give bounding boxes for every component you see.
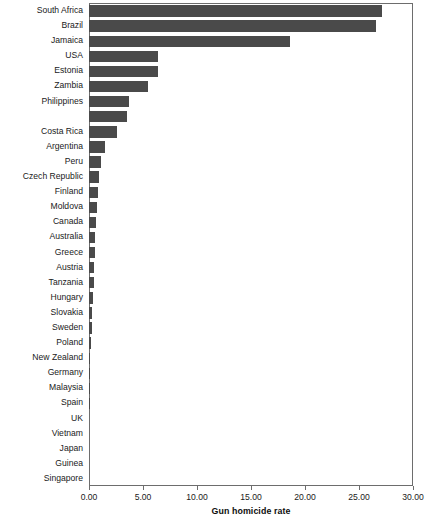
bar-row bbox=[89, 214, 413, 229]
bar bbox=[89, 383, 90, 394]
bar bbox=[89, 202, 97, 213]
x-axis-tick-mark bbox=[251, 486, 252, 490]
bar bbox=[89, 353, 90, 364]
bar bbox=[89, 337, 91, 348]
bar-row bbox=[89, 184, 413, 199]
y-axis-tick-label: Malaysia bbox=[0, 380, 86, 395]
y-axis-tick-label: Austria bbox=[0, 260, 86, 275]
y-axis-tick-label: Finland bbox=[0, 184, 86, 199]
bar-row bbox=[89, 320, 413, 335]
bar-row bbox=[89, 456, 413, 471]
bar bbox=[89, 292, 93, 303]
bar bbox=[89, 277, 94, 288]
bar-row bbox=[89, 305, 413, 320]
y-axis-tick-label: Tanzania bbox=[0, 275, 86, 290]
x-axis: 0.005.0010.0015.0020.0025.0030.00 bbox=[89, 486, 413, 522]
bar-row bbox=[89, 441, 413, 456]
bar-row bbox=[89, 380, 413, 395]
y-axis-tick-label: New Zealand bbox=[0, 350, 86, 365]
y-axis-tick-label: Vietnam bbox=[0, 426, 86, 441]
x-axis-tick-mark bbox=[143, 486, 144, 490]
x-axis-tick-label: 0.00 bbox=[81, 492, 98, 502]
bar-series-layer bbox=[89, 3, 413, 486]
bar-row bbox=[89, 169, 413, 184]
bar bbox=[89, 111, 127, 122]
bar-row bbox=[89, 139, 413, 154]
y-axis-tick-label: Sweden bbox=[0, 320, 86, 335]
y-axis-tick-label: Jamaica bbox=[0, 33, 86, 48]
bar-row bbox=[89, 94, 413, 109]
bar-row bbox=[89, 78, 413, 93]
bar bbox=[89, 171, 99, 182]
y-axis-tick-label: Guinea bbox=[0, 456, 86, 471]
bar-row bbox=[89, 48, 413, 63]
x-axis-tick-mark bbox=[197, 486, 198, 490]
bar bbox=[89, 322, 92, 333]
y-axis-tick-label: Argentina bbox=[0, 139, 86, 154]
bar bbox=[89, 156, 101, 167]
y-axis-tick-label: Australia bbox=[0, 229, 86, 244]
bar-row bbox=[89, 199, 413, 214]
bar-row bbox=[89, 124, 413, 139]
y-axis-tick-label: South Africa bbox=[0, 3, 86, 18]
x-axis-tick-mark bbox=[89, 486, 90, 490]
bar-row bbox=[89, 426, 413, 441]
bar-row bbox=[89, 229, 413, 244]
bar bbox=[89, 81, 148, 92]
x-axis-tick-label: 15.00 bbox=[240, 492, 262, 502]
bar-row bbox=[89, 33, 413, 48]
y-axis-tick-label: Estonia bbox=[0, 63, 86, 78]
bar-row bbox=[89, 471, 413, 486]
y-axis-tick-label: Japan bbox=[0, 441, 86, 456]
bar bbox=[89, 51, 158, 62]
y-axis-tick-label: Peru bbox=[0, 154, 86, 169]
bar bbox=[89, 126, 117, 137]
y-axis-tick-label: Poland bbox=[0, 335, 86, 350]
y-axis-tick-label: UK bbox=[0, 411, 86, 426]
bar-row bbox=[89, 350, 413, 365]
bar bbox=[89, 66, 158, 77]
bar-row bbox=[89, 335, 413, 350]
bar bbox=[89, 232, 95, 243]
gun-homicide-rate-chart: South AfricaBrazilJamaicaUSAEstoniaZambi… bbox=[0, 0, 429, 522]
bar-row bbox=[89, 109, 413, 124]
bar bbox=[89, 307, 92, 318]
x-axis-tick-label: 20.00 bbox=[294, 492, 316, 502]
bar bbox=[89, 247, 95, 258]
bar-row bbox=[89, 154, 413, 169]
x-axis-tick-label: 5.00 bbox=[135, 492, 152, 502]
x-axis-tick-label: 25.00 bbox=[348, 492, 370, 502]
y-axis-tick-label: Czech Republic bbox=[0, 169, 86, 184]
y-axis-tick-label: Brazil bbox=[0, 18, 86, 33]
y-axis-tick-label: Germany bbox=[0, 365, 86, 380]
bar-row bbox=[89, 365, 413, 380]
y-axis-tick-label: Singapore bbox=[0, 471, 86, 486]
y-axis-tick-label: Costa Rica bbox=[0, 124, 86, 139]
bar-row bbox=[89, 260, 413, 275]
x-axis-tick-mark bbox=[359, 486, 360, 490]
bar bbox=[89, 141, 105, 152]
y-axis-tick-label: Hungary bbox=[0, 290, 86, 305]
y-axis-tick-label bbox=[0, 109, 86, 124]
y-axis-tick-label: Zambia bbox=[0, 78, 86, 93]
bar-row bbox=[89, 275, 413, 290]
bar bbox=[89, 96, 129, 107]
bar bbox=[89, 217, 96, 228]
bar-row bbox=[89, 411, 413, 426]
x-axis-tick-label: 30.00 bbox=[402, 492, 424, 502]
x-axis-title: Gun homicide rate bbox=[89, 506, 413, 516]
y-axis-tick-label: Greece bbox=[0, 245, 86, 260]
x-axis-tick-label: 10.00 bbox=[186, 492, 208, 502]
bar bbox=[89, 5, 382, 16]
y-axis-tick-label: Canada bbox=[0, 214, 86, 229]
bar bbox=[89, 262, 94, 273]
bar-row bbox=[89, 290, 413, 305]
bar bbox=[89, 36, 290, 47]
y-axis-tick-label: Slovakia bbox=[0, 305, 86, 320]
bar-row bbox=[89, 3, 413, 18]
bar-row bbox=[89, 18, 413, 33]
y-axis-tick-label: Spain bbox=[0, 395, 86, 410]
x-axis-tick-mark bbox=[305, 486, 306, 490]
bar bbox=[89, 187, 98, 198]
bar bbox=[89, 398, 90, 409]
